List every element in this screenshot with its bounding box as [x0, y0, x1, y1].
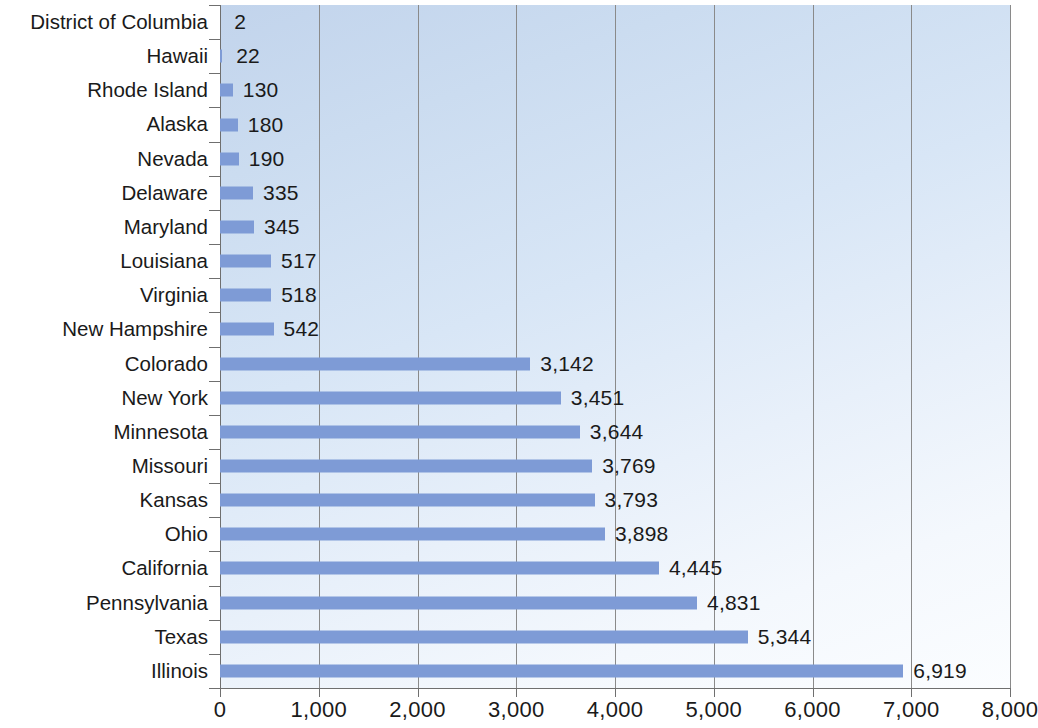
y-axis-tick	[209, 210, 220, 211]
x-axis-tick-label: 1,000	[290, 697, 347, 723]
x-axis-tick	[1010, 688, 1011, 697]
bar-row: 4,831	[220, 586, 1010, 620]
x-axis-tick	[911, 688, 912, 697]
y-axis-label: Rhode Island	[3, 73, 208, 107]
bar-row: 5,344	[220, 620, 1010, 654]
x-axis-tick	[220, 688, 221, 697]
y-axis-ticks	[209, 5, 220, 689]
y-axis-label: Pennsylvania	[3, 586, 208, 620]
x-axis-tick-label: 2,000	[389, 697, 446, 723]
plot-area: 2221301801903353455175185423,1423,4513,6…	[220, 5, 1010, 688]
bar	[220, 562, 659, 575]
y-axis-tick	[209, 5, 220, 6]
y-axis-tick	[209, 381, 220, 382]
y-axis-label: Louisiana	[3, 244, 208, 278]
y-axis-tick	[209, 142, 220, 143]
y-axis-tick	[209, 586, 220, 587]
y-axis-label: Colorado	[3, 347, 208, 381]
y-axis-tick	[209, 347, 220, 348]
bar-row: 2	[220, 5, 1010, 39]
bar-row: 3,769	[220, 449, 1010, 483]
bar-row: 3,644	[220, 415, 1010, 449]
bar	[220, 152, 239, 165]
y-axis-tick	[209, 688, 220, 689]
bar	[220, 118, 238, 131]
bar-row: 190	[220, 142, 1010, 176]
bar-value-label: 518	[281, 283, 317, 307]
bar	[220, 596, 697, 609]
bar	[220, 630, 748, 643]
y-axis-tick	[209, 39, 220, 40]
x-axis-tick	[813, 688, 814, 697]
bar	[220, 357, 530, 370]
bar-row: 4,445	[220, 551, 1010, 585]
bar-row: 345	[220, 210, 1010, 244]
x-axis-tick-label: 6,000	[784, 697, 841, 723]
bar-value-label: 3,769	[602, 454, 656, 478]
bar-value-label: 3,142	[540, 352, 594, 376]
y-axis-label: Virginia	[3, 278, 208, 312]
bar-value-label: 2	[234, 10, 246, 34]
y-axis-label: Delaware	[3, 176, 208, 210]
y-axis-tick	[209, 176, 220, 177]
y-axis-label: Minnesota	[3, 415, 208, 449]
x-axis-tick-label: 4,000	[587, 697, 644, 723]
x-axis-tick	[516, 688, 517, 697]
bar-value-label: 335	[263, 181, 299, 205]
bar-value-label: 130	[243, 78, 279, 102]
y-axis-tick	[209, 107, 220, 108]
y-axis-label: Alaska	[3, 107, 208, 141]
y-axis-labels: District of ColumbiaHawaiiRhode IslandAl…	[0, 5, 208, 688]
x-axis-tick	[615, 688, 616, 697]
y-axis-label: Illinois	[3, 654, 208, 688]
x-axis-tick	[418, 688, 419, 697]
y-axis-tick	[209, 654, 220, 655]
bar-value-label: 4,831	[707, 591, 761, 615]
y-axis-tick	[209, 551, 220, 552]
bar-value-label: 6,919	[913, 659, 967, 683]
y-axis-tick	[209, 517, 220, 518]
bar-row: 22	[220, 39, 1010, 73]
y-axis-label: Ohio	[3, 517, 208, 551]
bar-value-label: 3,644	[590, 420, 644, 444]
bar-row: 6,919	[220, 654, 1010, 688]
y-axis-label: New Hampshire	[3, 312, 208, 346]
x-axis-tick	[714, 688, 715, 697]
bar-row: 3,142	[220, 347, 1010, 381]
y-axis-label: District of Columbia	[3, 5, 208, 39]
bar	[220, 50, 222, 63]
bar-row: 335	[220, 176, 1010, 210]
y-axis-label: Nevada	[3, 142, 208, 176]
bar-value-label: 5,344	[758, 625, 812, 649]
y-axis-label: California	[3, 551, 208, 585]
bar	[220, 391, 561, 404]
y-axis-tick	[209, 312, 220, 313]
y-axis-tick	[209, 278, 220, 279]
bar	[220, 425, 580, 438]
bar-value-label: 3,451	[571, 386, 625, 410]
bar-row: 3,793	[220, 483, 1010, 517]
bar-row: 542	[220, 312, 1010, 346]
y-axis-label: Maryland	[3, 210, 208, 244]
x-axis-tick-label: 7,000	[883, 697, 940, 723]
bar	[220, 494, 595, 507]
bar-value-label: 190	[249, 147, 285, 171]
bar-row: 517	[220, 244, 1010, 278]
x-axis-tick-label: 5,000	[685, 697, 742, 723]
bar-value-label: 542	[284, 317, 320, 341]
bar	[220, 323, 274, 336]
bar-value-label: 22	[236, 44, 260, 68]
bar-value-label: 345	[264, 215, 300, 239]
y-axis-label: New York	[3, 381, 208, 415]
bar-row: 130	[220, 73, 1010, 107]
y-axis-tick	[209, 415, 220, 416]
bar	[220, 289, 271, 302]
bar	[220, 460, 592, 473]
y-axis-tick	[209, 449, 220, 450]
gridline-8000	[1010, 5, 1011, 688]
bar	[220, 528, 605, 541]
bar	[220, 664, 903, 677]
bar-value-label: 180	[248, 113, 284, 137]
bar-row: 180	[220, 107, 1010, 141]
